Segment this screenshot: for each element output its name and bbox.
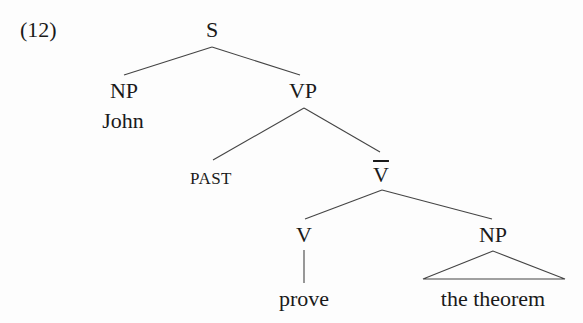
branch-vbar-np xyxy=(382,190,492,219)
branch-vp-vbar xyxy=(304,108,380,152)
tree-branches xyxy=(0,0,583,323)
node-np-subject: NP xyxy=(110,80,138,102)
leaf-prove: prove xyxy=(279,288,329,310)
branch-vp-past xyxy=(213,108,304,160)
node-vp: VP xyxy=(289,80,317,102)
node-past: PAST xyxy=(190,168,232,190)
triangle-np-the-theorem xyxy=(423,251,565,279)
node-v-bar: V xyxy=(373,164,389,186)
branch-s-vp xyxy=(212,47,300,75)
branch-s-np xyxy=(124,47,212,75)
leaf-john: John xyxy=(102,110,144,132)
leaf-the-theorem: the theorem xyxy=(441,288,545,310)
node-np-object: NP xyxy=(479,224,507,246)
node-s: S xyxy=(206,19,218,41)
node-v: V xyxy=(296,224,312,246)
branch-vbar-v xyxy=(305,190,382,219)
